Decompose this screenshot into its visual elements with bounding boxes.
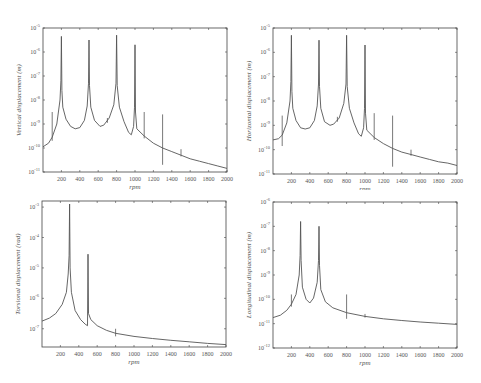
x-tick-label: 2000	[220, 351, 232, 357]
x-axis-label: rpm	[359, 359, 370, 367]
x-tick-label: 400	[305, 352, 314, 358]
x-tick-label: 1400	[396, 178, 408, 184]
response-curve	[42, 204, 226, 345]
x-axis-label: rpm	[129, 183, 140, 190]
y-tick-label: 10-7	[30, 71, 40, 79]
torsional-displacement-plot: 20040060080010001200140016001800200010-3…	[0, 190, 240, 383]
x-tick-label: 600	[94, 176, 103, 182]
chart-longitudinal-displacement: 20040060080010001200140016001800200010-6…	[240, 190, 481, 383]
x-tick-label: 1400	[166, 176, 178, 182]
y-tick-label: 10-8	[260, 96, 270, 104]
y-tick-label: 10-4	[29, 233, 39, 241]
y-tick-label: 10-6	[30, 47, 40, 55]
x-tick-label: 1800	[433, 178, 445, 184]
x-tick-label: 1000	[128, 351, 140, 357]
x-tick-label: 1200	[377, 178, 389, 184]
x-tick-label: 1200	[146, 351, 158, 357]
y-tick-label: 10-10	[258, 145, 271, 153]
x-tick-label: 2000	[221, 176, 233, 182]
y-tick-label: 10-7	[29, 324, 39, 332]
horizontal-displacement-plot: 20040060080010001200140016001800200010-5…	[240, 0, 481, 190]
chart-torsional-displacement: 20040060080010001200140016001800200010-3…	[0, 190, 240, 383]
y-tick-label: 10-7	[260, 221, 270, 229]
x-tick-label: 600	[93, 351, 102, 357]
x-tick-label: 200	[56, 351, 65, 357]
y-tick-label: 10-12	[258, 343, 270, 351]
x-tick-label: 1800	[203, 176, 215, 182]
x-tick-label: 800	[342, 352, 351, 358]
x-tick-label: 1800	[433, 352, 445, 358]
x-tick-label: 1000	[359, 178, 371, 184]
chart-vertical-displacement: 20040060080010001200140016001800200010-5…	[0, 0, 240, 190]
x-tick-label: 1600	[414, 352, 426, 358]
y-tick-label: 10-6	[29, 293, 39, 301]
y-tick-label: 10-6	[260, 47, 270, 55]
chart-horizontal-displacement: 20040060080010001200140016001800200010-5…	[240, 0, 481, 190]
y-tick-label: 10-6	[260, 197, 270, 205]
x-tick-label: 800	[342, 178, 351, 184]
x-tick-label: 800	[111, 351, 120, 357]
y-tick-label: 10-9	[30, 119, 40, 127]
x-tick-label: 200	[57, 176, 66, 182]
response-curve	[273, 222, 457, 325]
y-tick-label: 10-9	[260, 120, 270, 128]
y-tick-label: 10-7	[260, 72, 270, 80]
y-axis-label: Vertical displacement (m)	[15, 63, 23, 136]
y-tick-label: 10-5	[29, 263, 39, 271]
x-tick-label: 800	[112, 176, 121, 182]
x-tick-label: 200	[287, 178, 296, 184]
vertical-displacement-plot: 20040060080010001200140016001800200010-5…	[0, 0, 240, 190]
y-tick-label: 10-8	[260, 246, 270, 254]
y-tick-label: 10-10	[258, 294, 271, 302]
x-tick-label: 1600	[183, 351, 195, 357]
x-tick-label: 1600	[414, 178, 426, 184]
y-tick-label: 10-5	[260, 23, 270, 31]
y-axis-label: Longitudinal displacement (m)	[245, 231, 253, 319]
response-curve	[43, 35, 227, 168]
x-tick-label: 600	[324, 352, 333, 358]
response-curve	[273, 35, 457, 165]
y-tick-label: 10-10	[28, 143, 41, 151]
x-tick-label: 1200	[377, 352, 389, 358]
longitudinal-displacement-plot: 20040060080010001200140016001800200010-6…	[240, 190, 481, 383]
y-tick-label: 10-11	[258, 169, 270, 177]
x-tick-label: 400	[74, 351, 83, 357]
x-tick-label: 600	[324, 178, 333, 184]
x-tick-label: 1400	[165, 351, 177, 357]
x-tick-label: 2000	[451, 178, 463, 184]
x-tick-label: 1800	[202, 351, 214, 357]
x-tick-label: 200	[287, 352, 296, 358]
y-tick-label: 10-11	[258, 319, 270, 327]
x-axis-label: rpm	[128, 358, 139, 366]
y-tick-label: 10-8	[30, 95, 40, 103]
y-axis-label: Torsional displacement (rad)	[14, 233, 22, 315]
x-tick-label: 1000	[129, 176, 141, 182]
x-tick-label: 400	[305, 178, 314, 184]
y-tick-label: 10-3	[29, 202, 39, 210]
y-tick-label: 10-5	[30, 23, 40, 31]
x-tick-label: 1400	[396, 352, 408, 358]
y-axis-label: Horizontal displacement (m)	[245, 60, 253, 142]
x-tick-label: 1000	[359, 352, 371, 358]
x-tick-label: 1200	[147, 176, 159, 182]
x-tick-label: 2000	[451, 352, 463, 358]
x-tick-label: 1600	[184, 176, 196, 182]
y-tick-label: 10-11	[28, 167, 40, 175]
y-tick-label: 10-9	[260, 270, 270, 278]
x-tick-label: 400	[75, 176, 84, 182]
